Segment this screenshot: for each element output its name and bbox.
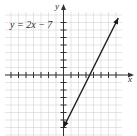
y-axis-label: y — [54, 1, 59, 11]
coordinate-plane: y = 2x − 7 x y — [0, 0, 137, 136]
y-axis-arrow-icon — [61, 4, 66, 10]
x-axis-label: x — [127, 74, 132, 84]
function-line — [64, 18, 119, 128]
line-series — [64, 18, 119, 128]
equation-label: y = 2x − 7 — [9, 19, 53, 30]
